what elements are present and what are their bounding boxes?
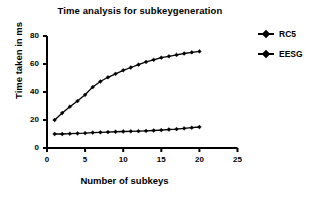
series-rc5 <box>53 125 202 136</box>
x-tick-label: 10 <box>115 155 131 164</box>
data-point-marker <box>68 132 72 136</box>
data-point-marker <box>121 130 125 134</box>
y-tick-label: 0 <box>23 143 39 152</box>
data-point-marker <box>53 132 57 136</box>
data-point-marker <box>167 54 171 58</box>
data-point-marker <box>198 50 202 54</box>
data-point-marker <box>144 60 148 64</box>
data-point-marker <box>121 68 125 72</box>
data-point-marker <box>137 63 141 67</box>
data-point-marker <box>198 125 202 129</box>
data-point-marker <box>190 50 194 54</box>
data-point-marker <box>175 53 179 57</box>
y-tick-label: 60 <box>23 59 39 68</box>
data-point-marker <box>129 66 133 70</box>
data-point-marker <box>129 129 133 133</box>
data-point-marker <box>114 130 118 134</box>
series-line <box>55 51 200 120</box>
x-tick-label: 5 <box>77 155 93 164</box>
legend-label: RC5 <box>279 29 296 39</box>
x-tick-label: 15 <box>153 155 169 164</box>
x-axis-label: Number of subkeys <box>47 175 202 186</box>
data-point-marker <box>106 130 110 134</box>
data-point-marker <box>182 52 186 56</box>
data-point-marker <box>98 130 102 134</box>
data-point-marker <box>152 129 156 133</box>
legend-marker-icon <box>258 29 274 39</box>
data-point-marker <box>137 129 141 133</box>
y-axis-label: Time taken in ms <box>13 0 24 126</box>
data-point-marker <box>182 127 186 131</box>
chart-figure: Time analysis for subkeygeneration Time … <box>0 0 325 203</box>
x-tick-label: 0 <box>39 155 55 164</box>
y-tick-label: 80 <box>23 31 39 40</box>
y-tick-label: 40 <box>23 87 39 96</box>
x-tick-label: 20 <box>191 155 207 164</box>
data-point-marker <box>83 131 87 135</box>
data-point-marker <box>91 131 95 135</box>
series-eesg <box>53 50 202 122</box>
legend-entry-eesg[interactable]: EESG <box>258 46 322 62</box>
chart-legend: RC5EESG <box>258 26 322 66</box>
y-tick-label: 20 <box>23 115 39 124</box>
legend-marker-icon <box>258 49 274 59</box>
data-point-marker <box>144 129 148 133</box>
data-point-marker <box>159 56 163 60</box>
legend-entry-rc5[interactable]: RC5 <box>258 26 322 42</box>
data-point-marker <box>60 132 64 136</box>
x-tick-label: 25 <box>230 155 246 164</box>
data-point-marker <box>114 72 118 76</box>
data-point-marker <box>152 58 156 62</box>
data-point-marker <box>159 128 163 132</box>
data-point-marker <box>76 132 80 136</box>
data-point-marker <box>167 128 171 132</box>
data-point-marker <box>190 126 194 130</box>
data-point-marker <box>175 127 179 131</box>
legend-label: EESG <box>279 49 303 59</box>
